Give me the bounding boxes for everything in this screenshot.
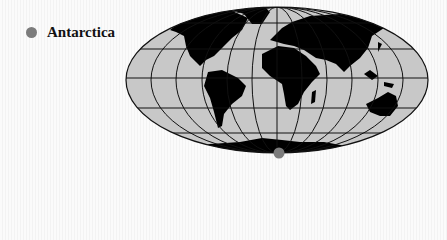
antarctica-marker bbox=[274, 148, 285, 159]
world-map bbox=[0, 0, 447, 166]
